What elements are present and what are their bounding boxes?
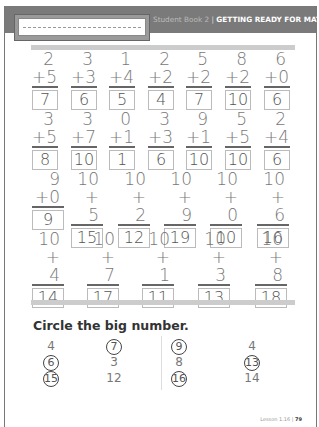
addition-problem: 2+46 [264, 110, 290, 170]
answer-box[interactable]: 1 [109, 150, 135, 170]
addend-top: 3 [71, 50, 97, 68]
addition-problem: 10+ 313 [198, 230, 230, 308]
answer-box[interactable]: 10 [225, 90, 251, 110]
circled-number[interactable]: 16 [171, 371, 187, 387]
answer-box[interactable]: 7 [186, 90, 212, 110]
answer-box[interactable]: 10 [186, 150, 212, 170]
number[interactable]: 4 [248, 339, 256, 353]
addition-problem: 9+09 [32, 170, 64, 230]
addition-problem: 6+06 [264, 50, 290, 110]
addend-bottom: +4 [109, 68, 135, 86]
section-title: GETTING READY FOR MATH [216, 15, 319, 24]
book-label: Student Book 2 [153, 15, 209, 24]
addend-top: 2 [148, 50, 174, 68]
name-line [23, 27, 141, 28]
number[interactable]: 3 [110, 355, 118, 369]
addend-top: 10 [198, 230, 230, 248]
header-separator: | [212, 15, 214, 24]
addition-problem: 1+45 [109, 50, 135, 110]
addition-problem: 10+ 414 [32, 230, 64, 308]
addend-top: 10 [255, 230, 287, 248]
number[interactable]: 14 [244, 371, 259, 385]
worksheet-page: Student Book 2 | GETTING READY FOR MATH … [4, 6, 317, 427]
addend-bottom: +5 [225, 128, 251, 146]
addend-top: 10 [164, 170, 196, 188]
addend-bottom: + 1 [142, 248, 174, 284]
number-column: 41314 [232, 338, 272, 386]
answer-box[interactable]: 10 [225, 150, 251, 170]
addend-top: 5 [186, 50, 212, 68]
answer-box[interactable]: 6 [264, 150, 290, 170]
addition-problem: 2+57 [32, 50, 58, 110]
column-divider [161, 336, 162, 390]
circled-number[interactable]: 13 [244, 355, 260, 371]
answer-box[interactable]: 4 [148, 90, 174, 110]
answer-box[interactable]: 6 [264, 90, 290, 110]
answer-box[interactable]: 8 [32, 150, 58, 170]
lesson-label: Lesson 1.16 [260, 416, 290, 422]
addend-top: 10 [118, 170, 150, 188]
addition-problem: 3+36 [148, 110, 174, 170]
addend-top: 10 [32, 230, 64, 248]
addend-bottom: +7 [71, 128, 97, 146]
addend-bottom: +2 [148, 68, 174, 86]
addend-top: 3 [148, 110, 174, 128]
addend-bottom: + 4 [32, 248, 64, 284]
addend-bottom: +4 [264, 128, 290, 146]
number[interactable]: 4 [47, 339, 55, 353]
addend-bottom: + 0 [210, 188, 242, 224]
addition-problem: 2+24 [148, 50, 174, 110]
addend-bottom: +0 [264, 68, 290, 86]
addend-bottom: +2 [186, 68, 212, 86]
addend-bottom: +3 [71, 68, 97, 86]
addend-top: 9 [32, 170, 64, 188]
addend-top: 5 [225, 110, 251, 128]
page-number: 79 [295, 416, 302, 422]
addend-bottom: + 7 [87, 248, 119, 284]
number-column: 9816 [159, 338, 199, 386]
addition-problem: 0+11 [109, 110, 135, 170]
number[interactable]: 8 [175, 355, 183, 369]
addend-bottom: +2 [225, 68, 251, 86]
answer-box[interactable]: 7 [32, 90, 58, 110]
answer-box[interactable]: 5 [109, 90, 135, 110]
answer-box[interactable]: 13 [198, 288, 230, 308]
answer-box[interactable]: 14 [32, 288, 64, 308]
name-box [14, 14, 150, 41]
addend-top: 2 [32, 50, 58, 68]
addend-top: 10 [257, 170, 289, 188]
page-footer: Lesson 1.16 | 79 [260, 416, 302, 422]
answer-box[interactable]: 6 [71, 90, 97, 110]
addend-bottom: + 6 [257, 188, 289, 224]
addition-problem: 5+27 [186, 50, 212, 110]
addition-problem: 3+710 [71, 110, 97, 170]
number-column: 7312 [94, 338, 134, 386]
circled-number[interactable]: 7 [106, 339, 122, 355]
addend-top: 3 [71, 110, 97, 128]
addend-bottom: + 2 [118, 188, 150, 224]
name-field[interactable] [18, 18, 146, 36]
addend-top: 0 [109, 110, 135, 128]
addend-bottom: +5 [32, 68, 58, 86]
addend-bottom: +3 [148, 128, 174, 146]
addition-problem: 3+36 [71, 50, 97, 110]
addend-top: 9 [186, 110, 212, 128]
number-column: 4615 [31, 338, 71, 386]
circled-number[interactable]: 15 [43, 371, 59, 387]
addition-problem: 9+110 [186, 110, 212, 170]
circled-number[interactable]: 9 [171, 339, 187, 355]
answer-box[interactable]: 17 [87, 288, 119, 308]
addend-top: 10 [210, 170, 242, 188]
circle-instructions: Circle the big number. [33, 318, 189, 333]
circled-number[interactable]: 6 [43, 355, 59, 371]
answer-box[interactable]: 9 [32, 210, 64, 230]
addend-top: 2 [264, 110, 290, 128]
answer-box[interactable]: 18 [255, 288, 287, 308]
addend-top: 1 [109, 50, 135, 68]
addition-problem: 10+ 717 [87, 230, 119, 308]
answer-box[interactable]: 6 [148, 150, 174, 170]
answer-box[interactable]: 11 [142, 288, 174, 308]
number[interactable]: 12 [106, 371, 121, 385]
addend-top: 3 [32, 110, 58, 128]
answer-box[interactable]: 10 [71, 150, 97, 170]
